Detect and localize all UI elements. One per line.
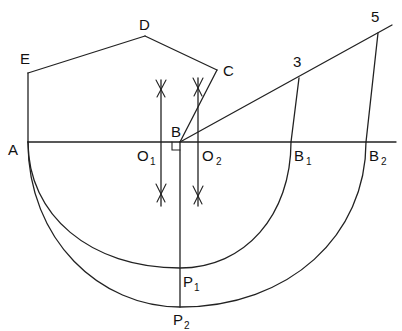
svg-text:2: 2 [216, 156, 222, 167]
edge-d-c [145, 36, 217, 70]
edge-e-d [28, 36, 145, 73]
svg-text:B: B [369, 147, 379, 164]
segment-5-b2 [366, 33, 378, 142]
label-b: B [171, 123, 181, 140]
right-angle-mark [172, 142, 180, 150]
label-d: D [139, 16, 150, 33]
label-p1: P 1 [183, 273, 200, 293]
label-a: A [8, 141, 18, 158]
arc-inner [28, 142, 291, 268]
svg-text:2: 2 [381, 156, 387, 167]
geometry-diagram: A E D C B 3 5 O 1 O 2 B 1 B 2 P 1 P 2 [0, 0, 402, 331]
svg-text:O: O [202, 147, 214, 164]
svg-text:P: P [183, 273, 193, 290]
svg-text:1: 1 [306, 156, 312, 167]
label-5: 5 [371, 8, 379, 25]
label-o2: O 2 [202, 147, 222, 167]
svg-text:2: 2 [184, 320, 190, 331]
label-c: C [223, 62, 234, 79]
svg-text:1: 1 [194, 282, 200, 293]
svg-text:O: O [137, 147, 149, 164]
svg-text:B: B [294, 147, 304, 164]
label-3: 3 [293, 53, 301, 70]
label-o1: O 1 [137, 147, 156, 167]
bisector-o1 [156, 80, 166, 206]
label-e: E [20, 50, 30, 67]
label-p2: P 2 [173, 311, 190, 331]
segment-3-b1 [291, 78, 299, 142]
ray-b-5 [180, 25, 392, 142]
svg-text:P: P [173, 311, 183, 328]
label-b2: B 2 [369, 147, 387, 167]
label-b1: B 1 [294, 147, 312, 167]
svg-text:1: 1 [150, 156, 156, 167]
